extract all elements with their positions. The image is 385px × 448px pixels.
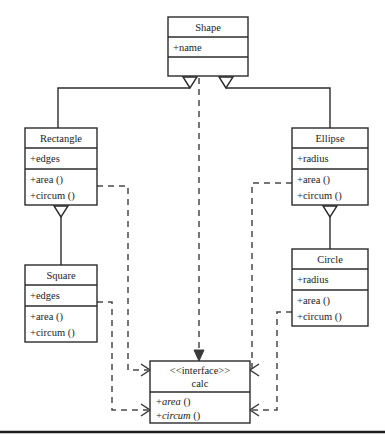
class-box-shape[interactable]: Shape +name (168, 17, 248, 76)
class-name-ellipse: Ellipse (315, 133, 345, 144)
class-box-ellipse[interactable]: Ellipse +radius +area () +circum () (292, 128, 368, 205)
op-suffix-0: () (183, 396, 190, 408)
op-italic-1: circum (162, 410, 191, 421)
op-suffix-1: () (193, 410, 200, 422)
realization-rectangle-to-calc (97, 186, 150, 376)
class-operation-circle-1: +circum () (297, 311, 342, 323)
class-operation-square-1: +circum () (30, 327, 75, 339)
class-attribute-circle-0: +radius (297, 274, 329, 285)
uml-class-diagram: Shape +name Rectangle +edges +area () +c… (0, 0, 385, 448)
uml-canvas: Shape +name Rectangle +edges +area () +c… (0, 0, 385, 448)
class-name-square: Square (46, 270, 75, 281)
generalization-ellipse-to-shape (219, 76, 330, 128)
class-operation-rectangle-1: +circum () (30, 190, 75, 202)
class-operation-ellipse-1: +circum () (297, 190, 342, 202)
class-operation-square-0: +area () (30, 311, 64, 323)
interface-name-calc: calc (192, 378, 209, 389)
class-operation-ellipse-0: +area () (297, 174, 331, 186)
op-italic-0: area (162, 396, 181, 407)
generalization-square-to-rectangle (54, 206, 68, 265)
class-operation-circle-0: +area () (297, 295, 331, 307)
interface-stereotype-calc: <<interface>> (170, 365, 230, 376)
class-operation-rectangle-0: +area () (30, 174, 64, 186)
interface-operation-calc-1: +circum () (156, 410, 201, 422)
interface-operation-calc-0: +area () (156, 396, 191, 408)
generalization-circle-to-ellipse (323, 206, 337, 249)
generalization-rectangle-to-shape (58, 76, 197, 128)
class-name-rectangle: Rectangle (40, 133, 82, 144)
class-box-square[interactable]: Square +edges +area () +circum () (25, 265, 97, 342)
class-attribute-shape-0: +name (173, 42, 202, 53)
realization-shape-to-calc (194, 78, 204, 361)
class-name-shape: Shape (195, 22, 221, 33)
class-box-calc-interface[interactable]: <<interface>> calc +area () +circum () (150, 361, 250, 423)
class-box-rectangle[interactable]: Rectangle +edges +area () +circum () (25, 128, 97, 205)
realization-ellipse-to-calc (250, 183, 292, 376)
class-attribute-rectangle-0: +edges (30, 153, 60, 164)
class-attribute-ellipse-0: +radius (297, 153, 329, 164)
class-box-circle[interactable]: Circle +radius +area () +circum () (292, 249, 368, 326)
class-attribute-square-0: +edges (30, 290, 60, 301)
realization-square-to-calc (97, 302, 150, 416)
class-name-circle: Circle (317, 254, 343, 265)
realization-circle-to-calc (250, 312, 292, 416)
